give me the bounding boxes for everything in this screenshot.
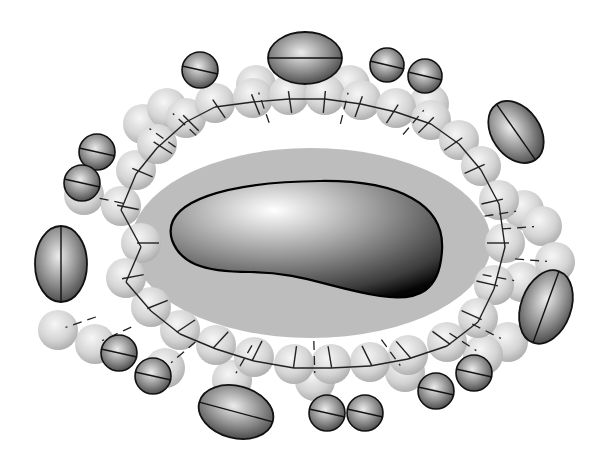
diagram <box>0 0 609 476</box>
dark-sphere <box>182 52 218 88</box>
light-sphere <box>522 206 562 246</box>
light-sphere <box>38 310 78 350</box>
particle-diagram <box>0 0 609 476</box>
dark-sphere <box>135 358 171 394</box>
dark-sphere <box>408 59 442 93</box>
ellipsoid <box>268 32 342 84</box>
dark-sphere <box>456 355 492 391</box>
ellipsoid <box>193 377 280 447</box>
dark-sphere <box>418 373 454 409</box>
dark-sphere <box>101 335 137 371</box>
dark-sphere <box>347 395 383 431</box>
dark-sphere <box>370 48 404 82</box>
dark-sphere <box>309 395 345 431</box>
ellipsoid <box>35 226 87 302</box>
dark-sphere <box>64 165 100 201</box>
